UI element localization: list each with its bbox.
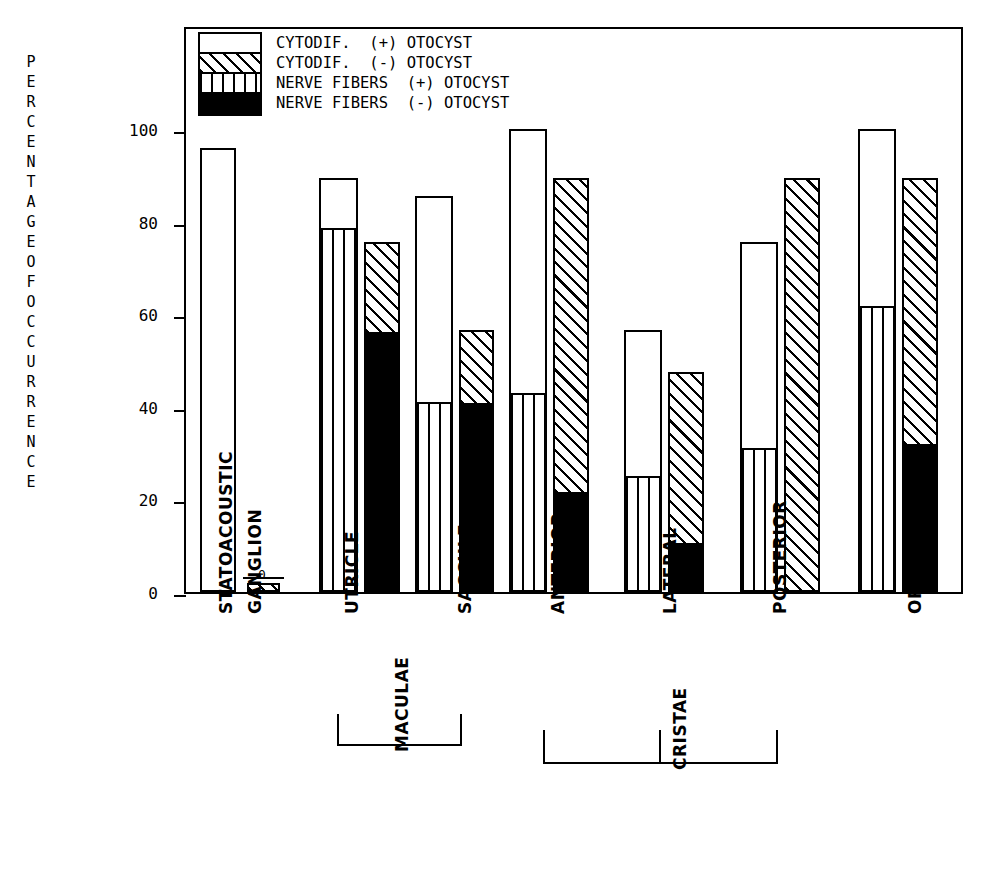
bar-plus-otocyst-upper-segment xyxy=(417,198,451,404)
y-axis-title-char: C xyxy=(18,112,44,132)
y-axis-title-char: E xyxy=(18,72,44,92)
bar-plus-otocyst-lateral xyxy=(624,330,662,592)
x-label-line: STATOACOUSTIC xyxy=(212,451,240,614)
plot-area: CYTODIF. (+) OTOCYSTCYTODIF. (-) OTOCYST… xyxy=(184,27,963,594)
y-axis-title-char: C xyxy=(18,312,44,332)
y-axis-title-char: A xyxy=(18,192,44,212)
y-tick-mark-60 xyxy=(174,317,186,319)
bar-plus-otocyst-lower-segment xyxy=(626,478,660,590)
bar-minus-otocyst-upper-segment xyxy=(461,332,492,405)
bracket-horizontal xyxy=(543,762,778,764)
plot-inner: 0 xyxy=(186,29,961,592)
y-axis-title-char: O xyxy=(18,292,44,312)
bar-plus-otocyst-saccule xyxy=(415,196,453,592)
bar-plus-otocyst-anterior xyxy=(509,129,547,592)
x-label-text: LATERAL xyxy=(660,528,680,614)
y-axis-title-char: E xyxy=(18,412,44,432)
y-axis-title: P E R C E N T A G E O F O C C U R R E N … xyxy=(18,52,44,492)
group-label-cristae: CRISTAE xyxy=(670,687,690,770)
x-label-text: SACCULE xyxy=(455,524,475,614)
y-axis-title-char: F xyxy=(18,272,44,292)
y-axis-title-char: E xyxy=(18,472,44,492)
x-label-lateral: LATERAL xyxy=(660,528,680,614)
y-axis-title-char: G xyxy=(18,212,44,232)
y-axis-title-char: T xyxy=(18,172,44,192)
y-tick-mark-20 xyxy=(174,502,186,504)
y-axis-title-char: C xyxy=(18,332,44,352)
y-tick-label-20: 20 xyxy=(106,491,158,510)
bar-minus-otocyst-upper-segment xyxy=(366,244,398,333)
bar-minus-otocyst-upper-segment xyxy=(904,180,936,446)
bar-minus-otocyst-upper-segment xyxy=(786,180,818,590)
bar-plus-otocyst-upper-segment xyxy=(742,244,776,450)
bar-minus-otocyst-utricle xyxy=(364,242,400,592)
x-label-statoacoustic-ganglion-line2: GANGLION xyxy=(245,509,265,614)
y-tick-mark-80 xyxy=(174,225,186,227)
y-axis-title-char: P xyxy=(18,52,44,72)
x-label-anterior: ANTERIOR xyxy=(548,512,568,614)
bar-plus-otocyst-organ-of-corti xyxy=(858,129,896,592)
bracket-middle-stem xyxy=(659,730,661,762)
y-tick-label-60: 60 xyxy=(106,306,158,325)
bar-plus-otocyst-upper-segment xyxy=(511,131,545,395)
y-axis-title-char: E xyxy=(18,232,44,252)
bar-minus-otocyst-upper-segment xyxy=(670,374,702,544)
group-label-text: CRISTAE xyxy=(670,687,690,770)
y-axis-title-char: O xyxy=(18,252,44,272)
y-axis-title-char: R xyxy=(18,372,44,392)
y-tick-label-0: 0 xyxy=(106,584,158,603)
bracket-cristae xyxy=(543,730,778,764)
y-tick-mark-40 xyxy=(174,410,186,412)
group-label-text: MACULAE xyxy=(392,657,412,752)
y-axis-title-char: R xyxy=(18,92,44,112)
x-label-utricle: UTRICLE xyxy=(342,531,362,614)
y-axis-title-char: R xyxy=(18,392,44,412)
x-label-text: ANTERIOR xyxy=(548,512,568,614)
x-label-organ-of-corti: ORGAN OF CORTI xyxy=(905,443,925,614)
x-label-statoacoustic-ganglion: STATOACOUSTIC xyxy=(212,451,240,614)
bar-minus-otocyst-upper-segment xyxy=(555,180,587,494)
x-label-saccule: SACCULE xyxy=(455,524,475,614)
x-label-text: UTRICLE xyxy=(342,531,362,614)
bracket-left-stem xyxy=(337,714,339,744)
y-tick-mark-0 xyxy=(174,595,186,597)
bracket-right-stem xyxy=(460,714,462,744)
bar-plus-otocyst-upper-segment xyxy=(321,180,356,230)
y-axis-title-char: E xyxy=(18,132,44,152)
group-label-maculae: MACULAE xyxy=(392,657,412,752)
bar-plus-otocyst-upper-segment xyxy=(860,131,894,308)
bar-plus-otocyst-upper-segment xyxy=(626,332,660,478)
y-tick-label-80: 80 xyxy=(106,214,158,233)
y-axis-tick-labels: 020406080100 xyxy=(106,0,158,879)
y-axis-title-char: U xyxy=(18,352,44,372)
bar-plus-otocyst-lower-segment xyxy=(417,404,451,590)
y-tick-label-100: 100 xyxy=(106,121,158,140)
y-axis-title-char: N xyxy=(18,152,44,172)
bracket-right-stem xyxy=(776,730,778,762)
x-label-posterior: POSTERIOR xyxy=(770,500,790,614)
bar-plus-otocyst-lower-segment xyxy=(511,395,545,590)
y-tick-mark-100 xyxy=(174,132,186,134)
x-label-text: POSTERIOR xyxy=(770,500,790,614)
x-label-text: ORGAN OF CORTI xyxy=(905,443,925,614)
y-axis-title-char: N xyxy=(18,432,44,452)
bar-minus-otocyst-lower-segment xyxy=(366,334,398,590)
y-tick-label-40: 40 xyxy=(106,399,158,418)
y-axis-title-char: C xyxy=(18,452,44,472)
bar-plus-otocyst-lower-segment xyxy=(860,308,894,590)
x-label-line: GANGLION xyxy=(245,509,265,614)
bracket-left-stem xyxy=(543,730,545,762)
